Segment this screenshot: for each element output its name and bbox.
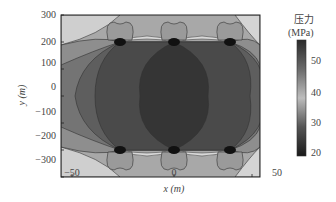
y-tick: 100	[26, 58, 56, 68]
colorbar-title: 压力	[294, 15, 314, 25]
x-axis-label: x (m)	[154, 184, 194, 194]
y-tick: −200	[26, 131, 56, 141]
colorbar-tick: 50	[311, 56, 321, 66]
contour-field	[61, 15, 263, 177]
x-tick: 0	[159, 168, 189, 178]
colorbar-tick: 30	[311, 118, 321, 128]
x-tick: −50	[57, 168, 87, 178]
colorbar-unit: (MPa)	[288, 28, 314, 38]
contour-figure: 300 200 100 0 −100 −200 −300 −50 0 50 x …	[0, 0, 336, 202]
y-axis-label: y (m)	[17, 75, 27, 115]
y-tick: 200	[26, 37, 56, 47]
y-tick: 300	[26, 10, 56, 20]
colorbar-tick: 20	[311, 148, 321, 158]
x-tick: 50	[262, 168, 292, 178]
colorbar-tick: 40	[311, 88, 321, 98]
y-tick: −100	[26, 107, 56, 117]
y-tick: −300	[26, 155, 56, 165]
colorbar	[297, 40, 306, 156]
y-tick: 0	[26, 82, 56, 92]
